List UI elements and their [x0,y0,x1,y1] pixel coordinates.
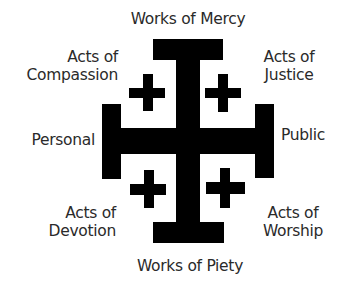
cross-bottom-crossbar [153,222,224,243]
label-acts-of-devotion: Acts of Devotion [0,204,116,240]
cross-left-crossbar [102,104,121,179]
label-works-of-piety: Works of Piety [120,257,260,275]
label-works-of-mercy: Works of Mercy [118,10,258,28]
label-line: Justice [252,66,326,84]
cross-horizontal-arm [102,128,274,154]
label-acts-of-compassion: Acts of Compassion [0,48,118,84]
label-line: Acts of [252,48,326,66]
jerusalem-cross-diagram: Works of Mercy Acts of Compassion Acts o… [0,0,341,295]
label-public: Public [281,126,325,144]
label-acts-of-worship: Acts of Worship [254,204,332,240]
label-personal: Personal [0,131,95,149]
label-line: Devotion [0,222,116,240]
label-line: Acts of [0,204,116,222]
label-line: Acts of [254,204,332,222]
label-acts-of-justice: Acts of Justice [252,48,326,84]
cross-right-crossbar [255,104,274,178]
label-line: Acts of [0,48,118,66]
label-line: Worship [254,222,332,240]
label-line: Compassion [0,66,118,84]
